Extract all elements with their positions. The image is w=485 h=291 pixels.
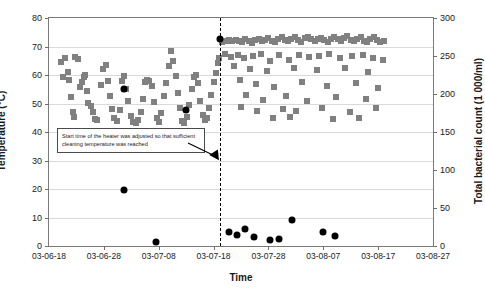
x-axis-tick [214,246,215,250]
temperature-marker [291,65,297,71]
x-axis-tick-label: 03-06-18 [32,251,66,261]
temperature-marker [181,120,187,126]
gridline [49,47,433,48]
temperature-marker [98,82,104,88]
plot-area: 01020304050607080 050100150200250300 03-… [48,17,434,247]
temperature-marker [373,105,379,111]
temperature-marker [324,83,330,89]
x-axis-tick-label: 03-08-27 [416,251,450,261]
x-axis-tick [378,246,379,250]
temperature-marker [208,92,214,98]
temperature-marker [184,114,190,120]
temperature-marker [380,57,386,63]
temperature-marker [151,99,157,105]
temperature-marker [241,55,247,61]
temperature-marker [107,93,113,99]
y-axis-right-tick-label: 300 [440,13,455,23]
gridline [49,75,433,76]
temperature-marker [109,106,115,112]
bacterial-count-marker [152,239,159,246]
temperature-marker [114,118,120,124]
temperature-marker [235,52,241,58]
temperature-marker [173,73,179,79]
temperature-marker [228,54,234,60]
temperature-marker [238,104,244,110]
temperature-marker [168,48,174,54]
chart-figure: Temperature (°C) Total bacterial count (… [0,0,485,291]
bacterial-count-marker [120,86,127,93]
temperature-marker [103,62,109,68]
temperature-marker [206,105,212,111]
temperature-marker [166,63,172,69]
y-axis-left-tick-label: 20 [32,184,42,194]
temperature-marker [175,90,181,96]
temperature-marker [231,63,237,69]
x-axis-tick [268,246,269,250]
temperature-marker [213,70,219,76]
temperature-marker [94,117,100,123]
temperature-marker [264,68,270,74]
y-axis-left-tick-label: 40 [32,127,42,137]
temperature-marker [296,52,302,58]
annotation-heater-note: Start time of the heater was adjusted so… [57,128,205,153]
temperature-marker [140,96,146,102]
bacterial-count-marker [225,229,232,236]
temperature-marker [66,77,72,83]
y-axis-left-tick [45,18,49,19]
x-axis-tick [104,246,105,250]
bacterial-count-marker [182,106,189,113]
temperature-marker [270,115,276,121]
y-axis-right-tick [433,94,437,95]
x-axis-tick-label: 03-07-28 [251,251,285,261]
temperature-marker [286,57,292,63]
temperature-marker [243,92,249,98]
temperature-marker [260,97,266,103]
temperature-marker [337,55,343,61]
y-axis-left-title: Temperature (°C) [0,91,7,172]
y-axis-left-tick-label: 30 [32,156,42,166]
temperature-marker [247,66,253,72]
temperature-marker [82,72,88,78]
bacterial-count-marker [266,236,273,243]
temperature-marker [149,83,155,89]
x-axis-tick-label: 03-06-28 [87,251,121,261]
y-axis-left-tick-label: 70 [32,42,42,52]
temperature-marker [197,98,203,104]
temperature-marker [349,53,355,59]
x-axis-tick-label: 03-07-08 [142,251,176,261]
x-axis-tick [323,246,324,250]
y-axis-left-tick-label: 80 [32,13,42,23]
temperature-marker [267,58,273,64]
temperature-marker [360,52,366,58]
y-axis-right-tick-label: 250 [440,51,455,61]
y-axis-left-tick-label: 50 [32,99,42,109]
y-axis-right-tick [433,18,437,19]
x-axis-tick-label: 03-08-07 [306,251,340,261]
temperature-marker [370,55,376,61]
gridline [49,189,433,190]
temperature-marker [283,93,289,99]
y-axis-right-tick [433,208,437,209]
temperature-marker [299,79,305,85]
temperature-marker [138,109,144,115]
gridline [49,218,433,219]
y-axis-left-tick [45,47,49,48]
bacterial-count-marker [289,217,296,224]
bacterial-count-marker [250,233,257,240]
temperature-marker [88,103,94,109]
x-axis-tick-label: 03-07-18 [197,251,231,261]
event-vline [220,18,221,246]
y-axis-right-tick [433,132,437,133]
temperature-marker [326,51,332,57]
temperature-marker [287,114,293,120]
bacterial-count-marker [242,226,249,233]
temperature-marker [62,55,68,61]
y-axis-left-tick [45,75,49,76]
y-axis-right-tick-label: 50 [440,203,450,213]
temperature-marker [347,109,353,115]
temperature-marker [375,85,381,91]
y-axis-left-tick-label: 60 [32,70,42,80]
temperature-marker [353,80,359,86]
bacterial-count-marker [332,233,339,240]
y-axis-right-tick [433,56,437,57]
